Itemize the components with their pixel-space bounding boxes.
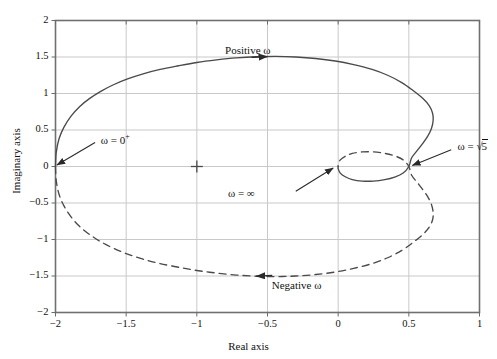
annotation-omega-sqrt5-value: 5 (482, 139, 489, 152)
annotation-omega-infinity: ω = ∞ (228, 187, 255, 199)
x-tick-label: −1.5 (106, 318, 146, 329)
nyquist-plot-figure: Real axis Imaginary axis −2−1.5−1−0.500.… (0, 0, 497, 359)
annotation-omega-sqrt5: ω = √5 (458, 140, 489, 152)
y-tick-label: 0.5 (9, 123, 49, 134)
x-tick-label: −2 (36, 318, 76, 329)
x-axis-title: Real axis (0, 340, 497, 352)
annotation-omega-sqrt5-prefix: ω = (458, 140, 477, 152)
x-tick-label: 0.5 (389, 318, 429, 329)
y-tick-label: −1 (9, 233, 49, 244)
leader-omega-sqrt5 (412, 150, 451, 166)
annotation-omega-zero-plus: ω = 0+ (101, 132, 130, 146)
gridlines (56, 21, 480, 313)
annotation-omega-zero-plus-text: ω = 0 (101, 134, 125, 146)
y-tick-label: 2 (9, 14, 49, 25)
annotation-omega-zero-plus-sup: + (125, 132, 130, 141)
leader-omega-zero-plus (57, 142, 95, 165)
y-tick-label: 1 (9, 87, 49, 98)
y-tick-label: −0.5 (9, 196, 49, 207)
y-tick-label: −2 (9, 306, 49, 317)
y-tick-label: 1.5 (9, 50, 49, 61)
x-tick-label: 1 (460, 318, 497, 329)
x-tick-label: −0.5 (248, 318, 288, 329)
annotation-negative-omega: Negative ω (272, 279, 322, 291)
curve-negative-omega (56, 152, 434, 277)
x-tick-label: 0 (318, 318, 358, 329)
leader-omega-infinity (296, 168, 333, 191)
critical-point-marker (191, 161, 203, 173)
annotation-positive-omega: Positive ω (225, 44, 270, 56)
direction-arrow (252, 57, 268, 58)
tick-marks (52, 21, 480, 317)
y-tick-label: 0 (9, 160, 49, 171)
direction-arrow (256, 275, 272, 276)
y-tick-label: −1.5 (9, 269, 49, 280)
x-tick-label: −1 (177, 318, 217, 329)
curve-positive-omega (56, 56, 434, 181)
